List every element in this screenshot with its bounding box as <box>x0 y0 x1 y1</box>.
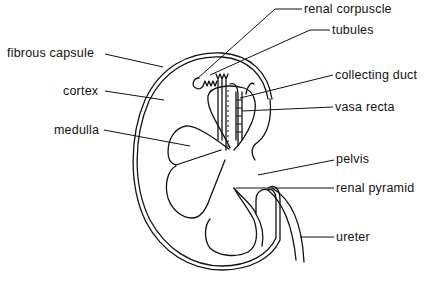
label-fibrous-capsule: fibrous capsule <box>7 46 94 60</box>
label-vasa-recta: vasa recta <box>335 100 395 114</box>
kidney-diagram: renal corpuscle tubules fibrous capsule … <box>0 0 430 305</box>
label-pelvis: pelvis <box>336 152 369 166</box>
label-renal-pyramid: renal pyramid <box>336 181 414 195</box>
nephron-detail <box>193 74 254 150</box>
pelvis-and-pyramids <box>166 86 304 262</box>
label-medulla: medulla <box>54 123 99 137</box>
label-collecting-duct: collecting duct <box>335 68 417 82</box>
label-renal-corpuscle: renal corpuscle <box>304 2 392 16</box>
label-cortex: cortex <box>63 84 98 98</box>
label-ureter: ureter <box>336 230 370 244</box>
label-tubules: tubules <box>332 23 374 37</box>
